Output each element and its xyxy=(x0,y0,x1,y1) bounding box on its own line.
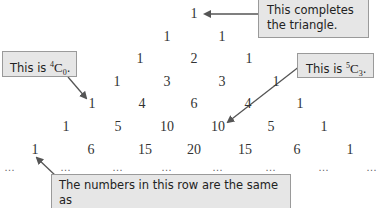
continuation-ellipsis: … xyxy=(366,161,378,173)
continuation-ellipsis: … xyxy=(318,161,330,173)
callout-line: This completes xyxy=(267,3,368,18)
triangle-cell: 1 xyxy=(137,51,144,67)
triangle-cell: 2 xyxy=(191,51,198,67)
arrow-5c3 xyxy=(228,66,300,122)
triangle-cell: 1 xyxy=(89,96,96,112)
triangle-cell: 15 xyxy=(238,142,252,158)
triangle-cell: 1 xyxy=(273,74,280,90)
triangle-cell: 1 xyxy=(297,96,304,112)
callout-text: . xyxy=(363,62,367,76)
callout-5c3: This is 5C3. xyxy=(297,53,374,78)
triangle-cell: 5 xyxy=(115,119,122,135)
triangle-cell: 1 xyxy=(321,119,328,135)
triangle-cell: 10 xyxy=(211,119,225,135)
callout-line: The numbers in this row are the same as xyxy=(59,178,290,208)
triangle-cell: 10 xyxy=(160,119,174,135)
triangle-cell: 6 xyxy=(294,142,301,158)
triangle-cell: 1 xyxy=(191,6,198,22)
continuation-ellipsis: … xyxy=(60,161,72,173)
continuation-ellipsis: … xyxy=(4,161,16,173)
combination-letter: C xyxy=(350,61,359,76)
triangle-cell: 20 xyxy=(187,142,201,158)
triangle-cell: 6 xyxy=(191,96,198,112)
triangle-cell: 4 xyxy=(139,96,146,112)
continuation-ellipsis: … xyxy=(212,161,224,173)
triangle-cell: 5 xyxy=(268,119,275,135)
continuation-ellipsis: … xyxy=(265,161,277,173)
triangle-cell: 1 xyxy=(63,119,70,135)
callout-completes-triangle: This completes the triangle. xyxy=(258,0,369,38)
triangle-cell: 1 xyxy=(246,51,253,67)
arrow-4c0 xyxy=(68,77,86,98)
triangle-cell: 1 xyxy=(347,142,354,158)
callout-text: This is xyxy=(306,62,346,76)
callout-line: the triangle. xyxy=(267,18,368,33)
callout-bottom-row: The numbers in this row are the same as … xyxy=(51,174,291,208)
triangle-cell: 1 xyxy=(164,29,171,45)
triangle-cell: 1 xyxy=(114,74,121,90)
triangle-cell: 15 xyxy=(138,142,152,158)
callout-text: . xyxy=(67,61,71,75)
combination-letter: C xyxy=(54,60,63,75)
triangle-cell: 4 xyxy=(245,96,252,112)
continuation-ellipsis: … xyxy=(161,161,173,173)
callout-4c0: This is 4C0. xyxy=(2,51,77,77)
triangle-cell: 3 xyxy=(164,74,171,90)
triangle-cell: 1 xyxy=(219,29,226,45)
callout-text: This is xyxy=(10,61,50,75)
continuation-ellipsis: … xyxy=(112,161,124,173)
triangle-cell: 3 xyxy=(219,74,226,90)
triangle-cell: 1 xyxy=(32,142,39,158)
triangle-cell: 6 xyxy=(88,142,95,158)
